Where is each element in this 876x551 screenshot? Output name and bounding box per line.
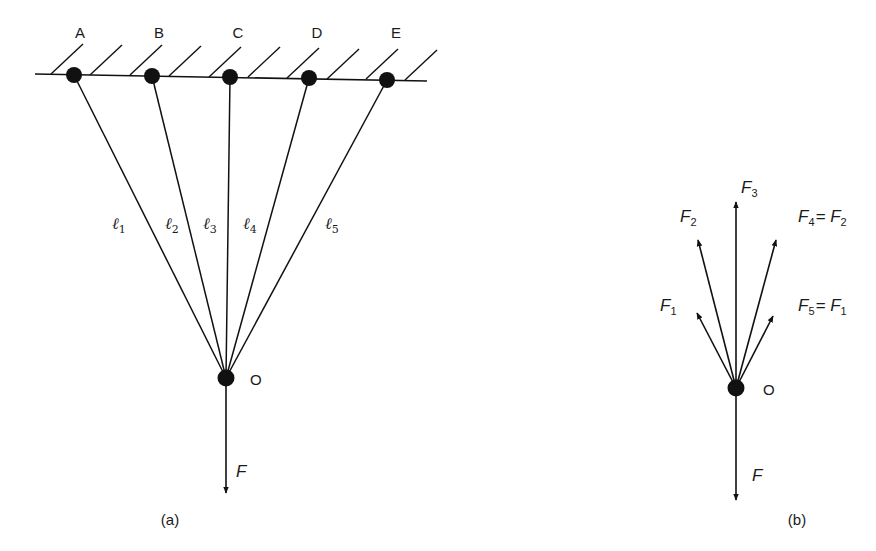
support-pins <box>66 67 395 88</box>
diagram-b: O F1 F2 F3 F4= F2 F5= F1 F (b) <box>660 178 847 528</box>
label-l5: ℓ5 <box>325 214 339 236</box>
force-vectors <box>697 202 776 500</box>
bar-l3 <box>226 77 230 378</box>
pin-b <box>144 68 160 84</box>
pin-e <box>379 72 395 88</box>
label-b: B <box>154 24 164 41</box>
label-f4-eq-f2: F4= F2 <box>798 207 847 228</box>
force-f1 <box>697 313 736 388</box>
force-f2 <box>698 240 736 388</box>
force-f5 <box>736 316 773 388</box>
statics-figure: A B C D E ℓ1 ℓ2 ℓ3 ℓ4 ℓ5 F O (a) <box>0 0 876 551</box>
joint-o-a <box>218 370 235 387</box>
load-label-a: F <box>236 462 248 481</box>
bar-l4 <box>226 78 309 378</box>
pin-a <box>66 67 82 83</box>
label-f3: F3 <box>741 178 758 199</box>
label-l2: ℓ2 <box>165 214 179 236</box>
joint-label-b: O <box>763 381 775 398</box>
pin-c <box>222 69 238 85</box>
joint-o-b <box>728 380 745 397</box>
label-f1: F1 <box>660 296 677 317</box>
load-label-b: F <box>752 466 764 485</box>
pin-d <box>301 70 317 86</box>
label-d: D <box>312 24 323 41</box>
caption-a: (a) <box>161 511 179 528</box>
diagram-a: A B C D E ℓ1 ℓ2 ℓ3 ℓ4 ℓ5 F O (a) <box>35 24 437 528</box>
label-c: C <box>233 24 244 41</box>
label-e: E <box>391 24 401 41</box>
label-l1: ℓ1 <box>112 214 126 236</box>
support-labels: A B C D E <box>75 24 401 41</box>
caption-b: (b) <box>788 511 806 528</box>
label-f5-eq-f1: F5= F1 <box>798 296 847 317</box>
joint-label-a: O <box>250 371 262 388</box>
label-l4: ℓ4 <box>243 214 257 236</box>
label-f2: F2 <box>680 207 697 228</box>
label-l3: ℓ3 <box>203 214 217 236</box>
force-f4 <box>736 240 776 388</box>
label-a: A <box>75 24 85 41</box>
